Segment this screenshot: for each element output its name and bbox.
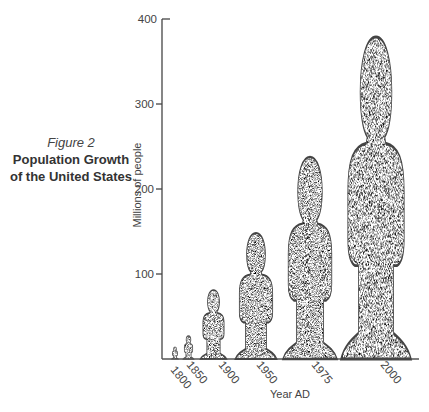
x-axis: 1800 1850 1900 1950 1975 2000 Year AD [162,359,419,400]
ytick-100: 100 [135,268,154,280]
ytick-400: 400 [138,13,157,25]
ytick-300: 300 [135,98,154,110]
y-axis-title: Millions of people [131,143,143,228]
y-axis: 400 300 200 100 Millions of people [131,13,170,359]
figure-1900 [200,290,226,359]
figures [172,37,411,359]
population-chart: 400 300 200 100 Millions of people 1800 … [0,0,429,412]
figure-1950 [235,233,277,359]
xtick-1950: 1950 [254,359,280,386]
figure-1800 [172,347,178,359]
xtick-1975: 1975 [309,359,335,386]
figure-2000 [341,37,411,359]
figure-1850 [183,336,193,359]
x-axis-title: Year AD [270,388,310,400]
xtick-2000: 2000 [378,359,404,386]
figure-1975 [283,157,337,359]
xtick-1900: 1900 [216,359,242,386]
